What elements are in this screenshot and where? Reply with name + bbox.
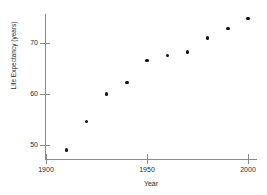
scatter-chart: 506070 190019502000 Year Life Expectancy…	[0, 0, 267, 195]
data-point	[65, 148, 68, 151]
data-point	[206, 36, 209, 39]
y-axis-tick-label-text: 60	[16, 90, 38, 98]
x-axis-line	[45, 159, 257, 160]
data-point	[246, 17, 249, 20]
y-axis-tick-label-text: 70	[16, 39, 38, 47]
data-point	[105, 92, 108, 95]
x-axis-tick-label: 1900	[26, 166, 66, 174]
y-axis-tick-label: 50	[0, 141, 38, 149]
data-point	[186, 50, 189, 53]
y-axis-title: Life Expectancy (years)	[10, 1, 17, 111]
data-point	[166, 54, 169, 57]
y-axis-tick	[40, 94, 50, 95]
x-axis-tick	[147, 154, 148, 164]
x-axis-tick-label: 1950	[127, 166, 167, 174]
y-axis-tick-label: 70	[0, 39, 38, 47]
y-axis-tick	[40, 43, 50, 44]
y-axis-line	[45, 14, 46, 160]
data-point	[226, 27, 229, 30]
x-axis-tick	[46, 154, 47, 164]
y-axis-tick-label-text: 50	[16, 141, 38, 149]
data-point	[145, 59, 148, 62]
x-axis-tick	[248, 154, 249, 164]
y-axis-tick	[40, 145, 50, 146]
x-axis-tick-label: 2000	[228, 166, 267, 174]
data-point	[85, 120, 88, 123]
data-point	[125, 81, 128, 84]
y-axis-tick-label: 60	[0, 90, 38, 98]
x-axis-title: Year	[45, 180, 257, 187]
